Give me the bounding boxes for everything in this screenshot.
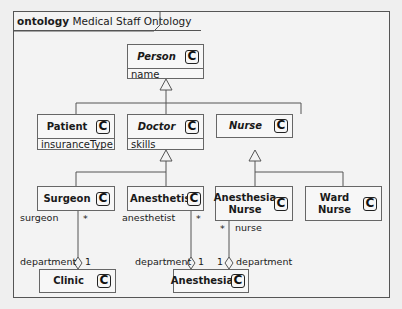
class-icon: C [274,119,288,133]
multiplicity-nurse: * [220,223,225,234]
role-department: department [20,256,76,267]
class-name: Surgeon [43,193,90,205]
class-header: Anesthesia Nurse C [216,187,292,220]
attribute-skills: skills [128,138,203,150]
class-icon: C [96,192,110,206]
class-clinic[interactable]: Clinic C [39,269,116,293]
class-header: Patient C [38,115,114,138]
class-icon: C [185,50,199,64]
class-anesthetist[interactable]: Anesthetist C [127,186,204,211]
class-header: Anesthesia C [174,270,248,292]
class-header: Anesthetist C [128,187,203,210]
role-department: department [236,256,292,267]
class-name: Nurse [229,120,262,132]
role-anesthetist: anesthetist [122,212,175,223]
attribute-name: name [128,68,203,80]
class-anesthesia[interactable]: Anesthesia C [173,269,249,293]
class-icon: C [231,274,245,288]
class-icon: C [97,274,111,288]
class-patient[interactable]: Patient C insuranceType [37,114,115,150]
multiplicity-department: 1 [85,256,91,267]
class-header: Nurse C [217,115,292,137]
generalization-arrow [160,79,172,90]
multiplicity-surgeon: * [83,213,88,224]
class-name: Anesthesia [171,275,233,287]
class-name-line2: Nurse [228,204,261,216]
class-name: Doctor [138,121,176,133]
class-header: Ward Nurse C [306,187,381,220]
multiplicity-department: 1 [217,256,223,267]
generalization-arrow [160,150,172,161]
class-header: Surgeon C [38,187,114,210]
class-person[interactable]: Person C name [127,44,204,79]
class-header: Person C [128,45,203,68]
frame-tab-border [13,11,160,31]
generalization-arrow [249,150,261,161]
class-doctor[interactable]: Doctor C skills [127,114,204,150]
class-icon: C [185,120,199,134]
class-icon: C [96,120,110,134]
class-nurse[interactable]: Nurse C [216,114,293,138]
class-name-line1: Ward [320,192,350,204]
class-name-line2: Nurse [318,204,351,216]
role-department: department [135,256,191,267]
class-surgeon[interactable]: Surgeon C [37,186,115,211]
class-name: Person [137,51,176,63]
attribute-insurance-type: insuranceType [38,138,114,150]
class-ward-nurse[interactable]: Ward Nurse C [305,186,382,221]
class-name-line1: Anesthesia [214,192,276,204]
multiplicity-anesthetist: * [196,213,201,224]
aggregation-diamond [225,257,233,269]
class-name: Clinic [53,275,84,287]
multiplicity-department: 1 [198,256,204,267]
role-nurse: nurse [235,222,262,233]
class-icon: C [274,197,288,211]
class-icon: C [187,192,201,206]
role-surgeon: surgeon [20,212,58,223]
class-header: Clinic C [40,270,115,292]
class-header: Doctor C [128,115,203,138]
class-icon: C [363,197,377,211]
class-name: Patient [47,121,88,133]
class-anesthesia-nurse[interactable]: Anesthesia Nurse C [215,186,293,221]
class-name: Anesthetist [130,193,195,205]
